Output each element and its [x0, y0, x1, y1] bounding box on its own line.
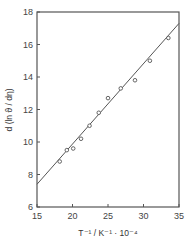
y-tick-label: 10: [23, 137, 33, 147]
data-point: [133, 78, 137, 82]
data-points: [58, 36, 170, 163]
x-tick-label: 15: [32, 211, 42, 221]
data-point: [167, 36, 171, 40]
x-tick-label: 35: [174, 211, 184, 221]
axis-ticks: 1520253035681012141618: [23, 7, 184, 221]
chart: 1520253035681012141618 T⁻¹ / K⁻¹ · 10⁻⁴ …: [0, 0, 192, 247]
y-tick-label: 6: [28, 202, 33, 212]
x-tick-label: 30: [138, 211, 148, 221]
y-tick-label: 12: [23, 105, 33, 115]
plot-frame: [37, 12, 179, 207]
data-point: [88, 124, 92, 128]
y-tick-label: 8: [28, 170, 33, 180]
x-tick-label: 25: [103, 211, 113, 221]
data-point: [148, 59, 152, 63]
data-point: [79, 137, 83, 141]
data-point: [71, 147, 75, 151]
y-axis-label: d (ln ϑ / dη): [4, 88, 14, 131]
x-axis-label: T⁻¹ / K⁻¹ · 10⁻⁴: [78, 228, 138, 238]
y-tick-label: 14: [23, 72, 33, 82]
data-point: [106, 96, 110, 100]
data-point: [97, 111, 101, 115]
data-point: [58, 160, 62, 164]
y-tick-label: 18: [23, 7, 33, 17]
data-point: [119, 87, 123, 91]
data-point: [65, 148, 69, 152]
x-tick-label: 20: [67, 211, 77, 221]
y-tick-label: 16: [23, 40, 33, 50]
plot-border: [37, 12, 179, 207]
